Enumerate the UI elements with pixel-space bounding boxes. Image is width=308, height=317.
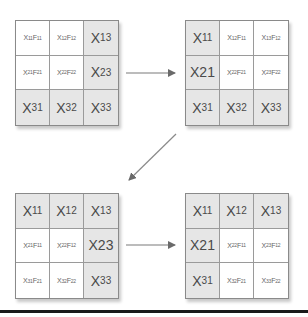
bottom-rule bbox=[0, 310, 308, 313]
arrow-down-left-icon bbox=[129, 134, 176, 180]
arrows-layer bbox=[0, 0, 308, 317]
